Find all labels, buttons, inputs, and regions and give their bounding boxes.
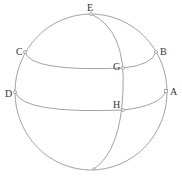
circle-cgb — [25, 52, 156, 69]
label-h: H — [113, 99, 120, 110]
meridian-egh — [91, 14, 123, 169]
point-d — [14, 91, 17, 94]
label-d: D — [5, 88, 12, 99]
point-b — [155, 51, 158, 54]
point-c — [24, 51, 27, 54]
point-a — [165, 90, 168, 93]
circle-dha — [15, 91, 166, 111]
label-c: C — [16, 46, 23, 57]
sphere-outline — [15, 14, 167, 170]
point-bottom — [93, 168, 95, 170]
sphere-diagram: E C B G D A H — [0, 0, 182, 179]
label-b: B — [160, 46, 167, 57]
label-g: G — [113, 61, 120, 72]
point-g — [122, 67, 125, 70]
label-e: E — [87, 2, 93, 13]
point-h — [122, 109, 125, 112]
label-a: A — [170, 86, 178, 97]
